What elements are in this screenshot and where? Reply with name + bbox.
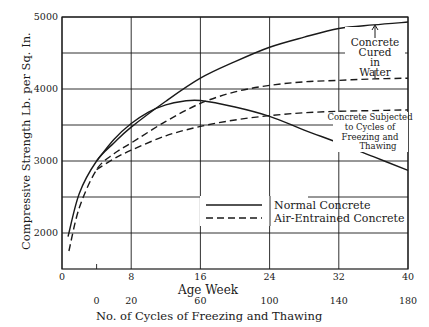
x2-tick-label: 100 — [261, 295, 279, 306]
svg-text:to Cycles of: to Cycles of — [345, 122, 396, 132]
x2-tick-label: 0 — [94, 295, 100, 306]
x2-tick-label: 140 — [330, 295, 348, 306]
annotation-freezing-thawing: Concrete Subjected to Cycles of Freezing… — [327, 112, 413, 152]
legend-dashed-label: Air-Entrained Concrete — [273, 212, 404, 225]
y-tick-label: 2000 — [34, 227, 58, 238]
legend: Normal Concrete Air-Entrained Concrete — [200, 196, 404, 226]
y-tick-label: 4000 — [34, 83, 58, 94]
x-axis-title: Age Week — [177, 283, 239, 297]
x-tick-label: 0 — [59, 271, 65, 282]
svg-text:Concrete Subjected: Concrete Subjected — [327, 112, 413, 122]
x-tick-label: 24 — [264, 271, 276, 282]
x-tick-label: 32 — [333, 271, 345, 282]
x-tick-label: 8 — [128, 271, 134, 282]
x-tick-label: 40 — [402, 271, 414, 282]
x2-tick-label: 20 — [125, 295, 137, 306]
x2-axis-title: No. of Cycles of Freezing and Thawing — [96, 309, 323, 323]
strength-chart: 2000300040005000081624324002060100140180… — [0, 0, 429, 327]
y-axis-title: Compressive Strength Lb. per Sq. In. — [19, 32, 33, 250]
x2-tick-label: 180 — [399, 295, 417, 306]
svg-text:Thawing: Thawing — [359, 141, 397, 151]
y-tick-label: 5000 — [34, 11, 58, 22]
x-tick-label: 16 — [194, 271, 206, 282]
y-tick-label: 3000 — [34, 155, 58, 166]
legend-solid-label: Normal Concrete — [274, 199, 371, 212]
annotation-cured-in-water: Concrete Cured in Water — [345, 25, 405, 78]
